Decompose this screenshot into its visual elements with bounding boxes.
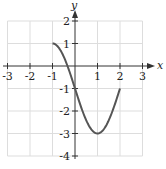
x-tick-label: 1 (94, 70, 101, 83)
x-axis-label: x (157, 59, 164, 72)
x-tick-label: -1 (47, 70, 58, 83)
x-axis-arrow-icon (147, 63, 155, 69)
y-tick-label: 2 (63, 15, 70, 28)
x-tick-label: 3 (139, 70, 146, 83)
y-tick-label: -3 (59, 128, 70, 141)
y-axis-label: y (70, 0, 78, 12)
chart: -3-2-112321-1-2-3-4 x y (0, 0, 166, 169)
y-tick-label: -1 (59, 83, 70, 96)
y-tick-label: -2 (59, 105, 70, 118)
x-tick-label: -2 (25, 70, 36, 83)
y-tick-label: 1 (63, 38, 70, 51)
x-tick-label: 2 (117, 70, 124, 83)
y-tick-label: -4 (59, 150, 70, 163)
axes (3, 10, 155, 159)
x-tick-label: -3 (2, 70, 13, 83)
